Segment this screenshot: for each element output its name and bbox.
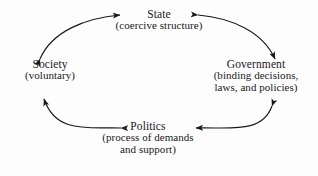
node-government-subtitle-line2: laws, and policies) [194,82,318,94]
node-politics: Politics (process of demands and support… [72,120,224,156]
node-state: State (coercive structure) [95,8,223,32]
cycle-diagram: State (coercive structure) Society (volu… [0,0,318,176]
node-politics-subtitle-line2: and support) [72,144,224,156]
node-state-subtitle: (coercive structure) [95,20,223,32]
node-society-subtitle: (voluntary) [4,70,96,82]
node-society: Society (voluntary) [4,58,96,82]
node-government: Government (binding decisions, laws, and… [194,58,318,94]
